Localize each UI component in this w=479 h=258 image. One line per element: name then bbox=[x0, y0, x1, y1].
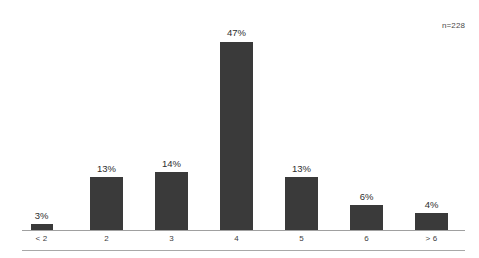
bar-value-label: 6% bbox=[360, 192, 374, 202]
bar-chart: n=228 3% 13% 14% 47% 13% 6% 4% bbox=[0, 0, 479, 258]
bar-rect[interactable] bbox=[155, 172, 188, 230]
bar-group-0[interactable]: 3% bbox=[10, 28, 73, 230]
bar-group-2[interactable]: 14% bbox=[140, 28, 203, 230]
bar-group-1[interactable]: 13% bbox=[75, 28, 138, 230]
bar-value-label: 47% bbox=[227, 28, 246, 38]
bar-group-6[interactable]: 4% bbox=[400, 28, 463, 230]
bar-value-label: 3% bbox=[35, 211, 49, 221]
x-tick-label-6: > 6 bbox=[400, 234, 463, 243]
bar-rect[interactable] bbox=[220, 42, 253, 231]
bar-group-5[interactable]: 6% bbox=[335, 28, 398, 230]
x-tick-label-5: 6 bbox=[335, 234, 398, 243]
bar-value-label: 13% bbox=[97, 164, 116, 174]
footer-divider bbox=[22, 250, 465, 251]
plot-area: n=228 3% 13% 14% 47% 13% 6% 4% bbox=[0, 0, 479, 258]
bar-rect[interactable] bbox=[90, 177, 123, 230]
bar-group-4[interactable]: 13% bbox=[270, 28, 333, 230]
bar-value-label: 4% bbox=[425, 200, 439, 210]
bar-rect[interactable] bbox=[350, 205, 383, 230]
bar-rect[interactable] bbox=[415, 213, 448, 230]
x-tick-label-4: 5 bbox=[270, 234, 333, 243]
x-axis-line bbox=[22, 230, 465, 231]
bar-group-3[interactable]: 47% bbox=[205, 28, 268, 230]
x-tick-label-1: 2 bbox=[75, 234, 138, 243]
x-tick-label-0: < 2 bbox=[10, 234, 73, 243]
bar-rect[interactable] bbox=[285, 177, 318, 230]
bar-value-label: 14% bbox=[162, 159, 181, 169]
x-tick-label-3: 4 bbox=[205, 234, 268, 243]
x-tick-label-2: 3 bbox=[140, 234, 203, 243]
bar-value-label: 13% bbox=[292, 164, 311, 174]
